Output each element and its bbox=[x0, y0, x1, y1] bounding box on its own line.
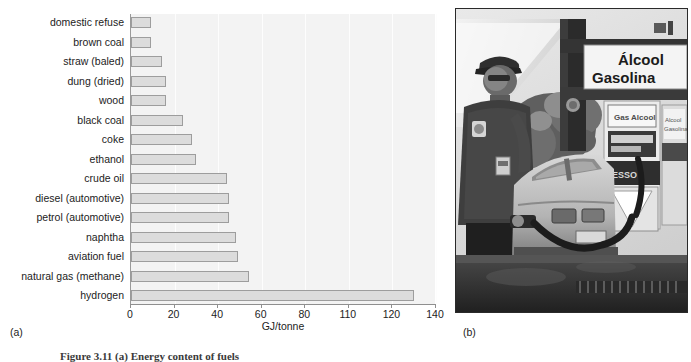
category-label: diesel (automotive) bbox=[0, 192, 128, 205]
gridline bbox=[436, 14, 437, 304]
x-tick-label: 20 bbox=[168, 308, 180, 320]
bar bbox=[131, 56, 162, 67]
bar bbox=[131, 154, 196, 165]
x-tick-label: 120 bbox=[383, 308, 401, 320]
bar-row bbox=[131, 270, 435, 283]
bar-row bbox=[131, 36, 435, 49]
x-axis-title: GJ/tonne bbox=[130, 320, 436, 332]
x-tick-label: 80 bbox=[298, 308, 310, 320]
bar-row bbox=[131, 133, 435, 146]
category-label: hydrogen bbox=[0, 289, 128, 302]
category-label: crude oil bbox=[0, 172, 128, 185]
bar bbox=[131, 251, 238, 262]
bar bbox=[131, 17, 151, 28]
bar bbox=[131, 173, 227, 184]
bar-row bbox=[131, 192, 435, 205]
x-axis-line bbox=[130, 304, 436, 305]
bar bbox=[131, 290, 414, 301]
fuel-station-photo: Álcool Gasolina Gas Alcool ESSO bbox=[455, 8, 688, 313]
bar-row bbox=[131, 211, 435, 224]
bar-row bbox=[131, 16, 435, 29]
svg-text:Gasolina: Gasolina bbox=[592, 69, 656, 86]
bars-container bbox=[131, 14, 435, 304]
bar bbox=[131, 193, 229, 204]
bar-row bbox=[131, 75, 435, 88]
category-label: wood bbox=[0, 94, 128, 107]
category-label: natural gas (methane) bbox=[0, 270, 128, 283]
x-tick-label: 110 bbox=[339, 308, 356, 320]
chart-plot-area bbox=[130, 14, 435, 304]
bar-row bbox=[131, 153, 435, 166]
bar-row bbox=[131, 114, 435, 127]
category-label: naphtha bbox=[0, 231, 128, 244]
category-label: coke bbox=[0, 133, 128, 146]
category-axis-labels: domestic refusebrown coalstraw (baled)du… bbox=[0, 14, 128, 304]
bar bbox=[131, 134, 192, 145]
x-tick-label: 140 bbox=[426, 308, 444, 320]
figure-caption-strip: Figure 3.11 (a) Energy content of fuels bbox=[0, 352, 691, 362]
bar bbox=[131, 76, 166, 87]
bar bbox=[131, 232, 236, 243]
bar bbox=[131, 37, 151, 48]
svg-text:ESSO: ESSO bbox=[612, 170, 637, 180]
bar-row bbox=[131, 55, 435, 68]
category-label: straw (baled) bbox=[0, 55, 128, 68]
bar-row bbox=[131, 94, 435, 107]
bar bbox=[131, 115, 183, 126]
category-label: domestic refuse bbox=[0, 16, 128, 29]
chart-panel-a: domestic refusebrown coalstraw (baled)du… bbox=[0, 0, 452, 340]
x-tick-label: 40 bbox=[211, 308, 223, 320]
svg-text:Gas Alcool: Gas Alcool bbox=[614, 113, 656, 122]
category-label: brown coal bbox=[0, 36, 128, 49]
bar-row bbox=[131, 250, 435, 263]
bar-row bbox=[131, 231, 435, 244]
figure-caption: Figure 3.11 (a) Energy content of fuels bbox=[60, 352, 239, 362]
svg-text:Alcool: Alcool bbox=[665, 117, 681, 123]
photo-panel-b: Álcool Gasolina Gas Alcool ESSO bbox=[455, 8, 691, 320]
x-tick-label: 0 bbox=[127, 308, 133, 320]
bar bbox=[131, 95, 166, 106]
category-label: ethanol bbox=[0, 153, 128, 166]
category-label: aviation fuel bbox=[0, 250, 128, 263]
bar bbox=[131, 271, 249, 282]
bar-row bbox=[131, 172, 435, 185]
figure-root: domestic refusebrown coalstraw (baled)du… bbox=[0, 0, 691, 362]
panel-b-label: (b) bbox=[463, 326, 476, 338]
category-label: dung (dried) bbox=[0, 75, 128, 88]
category-label: black coal bbox=[0, 114, 128, 127]
category-label: petrol (automotive) bbox=[0, 211, 128, 224]
panel-a-label: (a) bbox=[10, 326, 23, 338]
x-tick-label: 60 bbox=[255, 308, 267, 320]
svg-text:Álcool: Álcool bbox=[618, 51, 664, 68]
svg-text:Gasolina: Gasolina bbox=[664, 126, 687, 132]
bar-row bbox=[131, 289, 435, 302]
bar bbox=[131, 212, 229, 223]
